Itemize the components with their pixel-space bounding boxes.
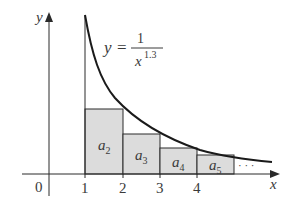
equation-numerator: 1 (137, 31, 144, 46)
equation-denominator-base: x (134, 53, 142, 69)
equation: y = 1 x 1.3 (102, 31, 163, 69)
tick-label-4: 4 (193, 180, 201, 196)
origin-label: 0 (35, 179, 43, 195)
tick-label-1: 1 (81, 180, 89, 196)
equation-exponent: 1.3 (144, 49, 157, 60)
tick-label-2: 2 (119, 180, 127, 196)
y-axis-label: y (34, 9, 43, 25)
x-axis-label: x (269, 176, 277, 192)
equation-lhs: y (102, 38, 112, 57)
tick-label-3: 3 (156, 180, 164, 196)
equation-equals: = (117, 38, 127, 57)
diagram-canvas: y x 0 1 2 3 4 a2 a3 a4 a5 · · · y = 1 x … (0, 0, 289, 210)
continuation-dots: · · · (238, 159, 255, 171)
y-axis-arrow-icon (45, 12, 53, 22)
